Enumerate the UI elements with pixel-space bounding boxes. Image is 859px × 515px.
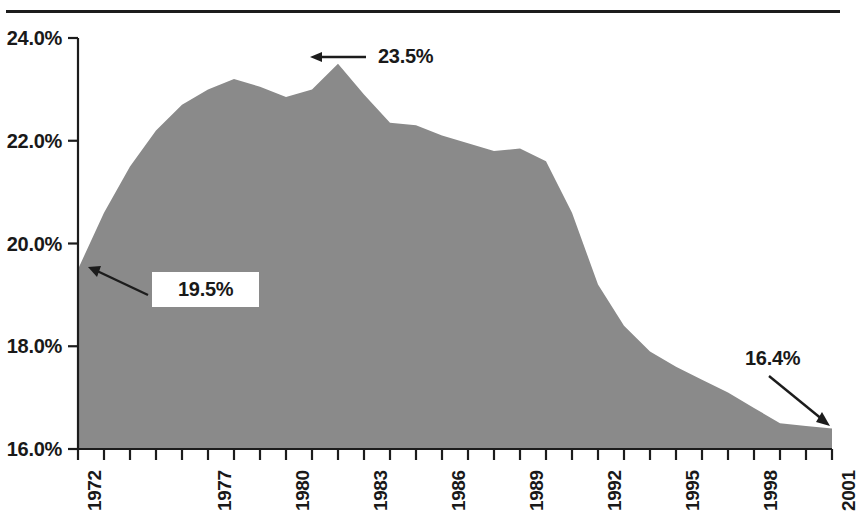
x-tick-label: 1980: [293, 470, 312, 511]
arrow-23-5: [310, 52, 366, 62]
area-series-path: [78, 64, 832, 449]
x-tick-label: 1986: [449, 470, 468, 511]
annotation-label-end: 16.4%: [745, 348, 800, 368]
x-tick-label: 2001: [839, 470, 858, 511]
x-tick-label: 1995: [683, 470, 702, 511]
annotation-label-peak: 23.5%: [378, 46, 433, 66]
x-tick-label: 1983: [371, 470, 390, 511]
y-tick-marks: [68, 38, 78, 449]
x-tick-label: 1992: [605, 470, 624, 511]
arrow-16-4: [769, 376, 830, 426]
x-tick-label: 1998: [761, 470, 780, 511]
y-tick-label: 24.0%: [0, 28, 62, 48]
y-tick-label: 20.0%: [0, 234, 62, 254]
x-tick-marks: [78, 449, 832, 460]
y-tick-label: 16.0%: [0, 439, 62, 459]
x-tick-label: 1972: [85, 470, 104, 511]
y-tick-label: 22.0%: [0, 131, 62, 151]
x-tick-label: 1977: [215, 470, 234, 511]
y-tick-label: 18.0%: [0, 336, 62, 356]
x-tick-label: 1989: [527, 470, 546, 511]
annotation-label-start: 19.5%: [152, 272, 259, 307]
area-series: [78, 64, 832, 449]
